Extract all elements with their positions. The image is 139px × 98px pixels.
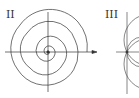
origin-dot — [126, 51, 128, 53]
circle-large-upper — [124, 14, 139, 66]
tangent-circles-diagram — [116, 12, 139, 94]
spiral-diagram — [5, 9, 97, 92]
spiral-center-dot — [47, 51, 49, 53]
diagram-canvas — [0, 0, 139, 98]
circle-large-lower — [124, 38, 139, 90]
arrowhead-icon — [92, 51, 97, 54]
spiral-curve — [11, 9, 88, 85]
